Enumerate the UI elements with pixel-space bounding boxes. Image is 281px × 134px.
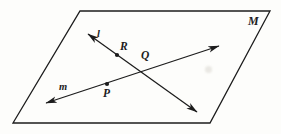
geometry-figure: M l m R Q P	[0, 0, 281, 134]
paper-smudge	[205, 66, 212, 73]
line-label-m: m	[59, 82, 67, 93]
point-label-p: P	[103, 88, 110, 100]
point-label-r: R	[120, 41, 128, 53]
plane-label-m: M	[248, 15, 259, 27]
line-label-l: l	[97, 29, 100, 40]
point-dot-r	[115, 53, 119, 57]
line-l	[88, 34, 197, 112]
figure-canvas	[0, 0, 281, 134]
point-dot-p	[105, 82, 109, 86]
line-m	[46, 46, 219, 103]
point-label-q: Q	[141, 50, 149, 62]
plane-outline	[13, 11, 270, 123]
